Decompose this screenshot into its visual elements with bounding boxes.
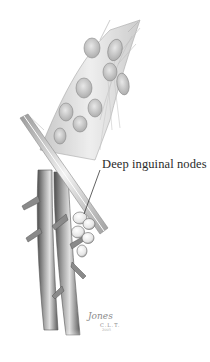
signature-year: 2005	[102, 329, 120, 333]
lymph-node	[88, 99, 102, 117]
lymph-node	[84, 38, 100, 58]
lymph-node	[76, 78, 92, 98]
structure-label: Deep inguinal nodes	[102, 157, 207, 172]
anatomical-illustration	[0, 0, 210, 362]
deep-inguinal-nodes	[72, 212, 96, 257]
lymph-node	[59, 103, 73, 121]
deep-node	[83, 219, 95, 230]
lymph-node	[73, 116, 87, 132]
artist-signature: Jones C.L.T. 2005	[88, 312, 120, 333]
deep-node	[77, 245, 87, 257]
lymph-node	[54, 128, 66, 144]
deep-node	[82, 233, 94, 244]
signature-name: Jones	[88, 312, 120, 321]
lymph-node	[103, 63, 117, 81]
